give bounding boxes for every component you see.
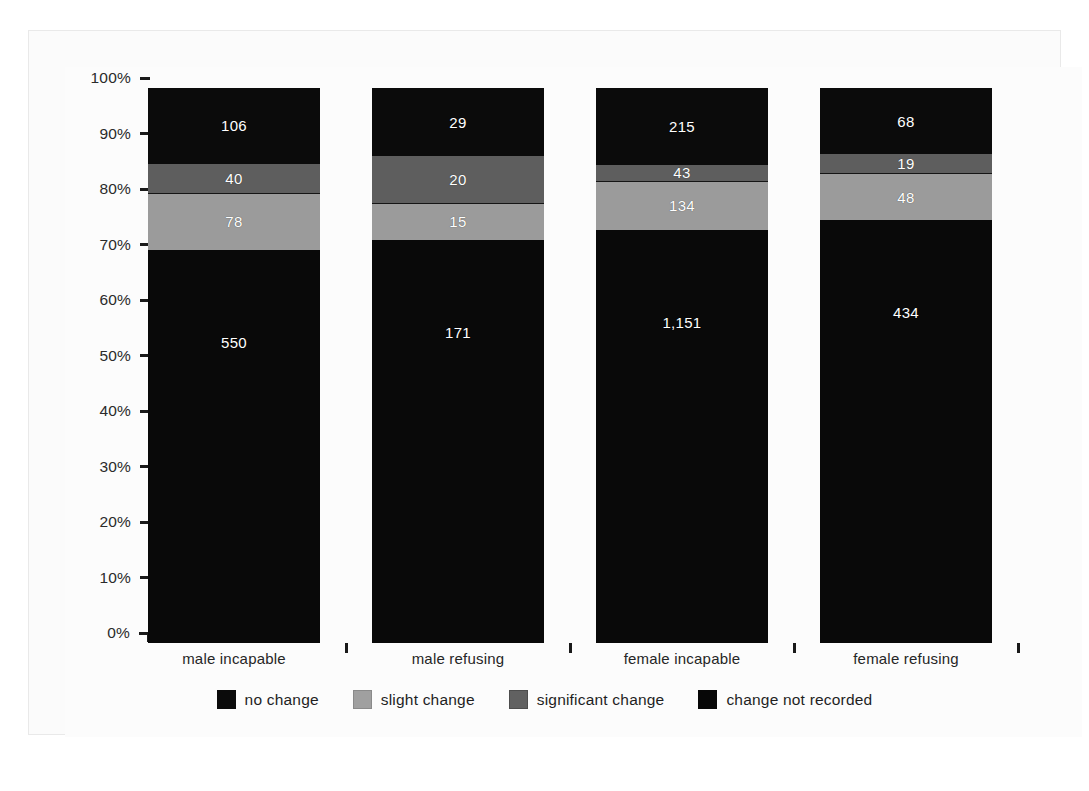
bar-segment-value: 215 xyxy=(669,119,695,134)
legend-label: no change xyxy=(245,691,319,709)
y-axis-tick-30: 30% xyxy=(99,457,150,477)
bar-segment[interactable]: 43 xyxy=(596,165,768,182)
bar-segment-value: 48 xyxy=(897,190,914,205)
legend-swatch xyxy=(217,690,236,709)
y-axis-tick-label: 40% xyxy=(99,401,131,421)
bar-segment[interactable]: 15 xyxy=(372,204,544,239)
y-axis-tick-80: 80% xyxy=(99,179,150,199)
bar-segment-value: 20 xyxy=(449,172,466,187)
y-axis-tick-60: 60% xyxy=(99,290,150,310)
y-axis-tick-label: 60% xyxy=(99,290,131,310)
x-axis-category-label: female refusing xyxy=(820,650,992,667)
y-axis-tick-10: 10% xyxy=(99,568,150,588)
bar-segment-value: 19 xyxy=(897,156,914,171)
bar-segment[interactable]: 68 xyxy=(820,88,992,154)
y-axis-tick-label: 100% xyxy=(91,68,131,88)
bar-segment[interactable]: 215 xyxy=(596,88,768,165)
bar-segment[interactable]: 20 xyxy=(372,156,544,204)
bar-segment[interactable]: 78 xyxy=(148,194,320,250)
stacked-bar[interactable]: 1064078550 xyxy=(148,88,320,643)
legend-item[interactable]: slight change xyxy=(353,690,475,709)
bar-segment-value: 40 xyxy=(225,171,242,186)
y-axis-tick-label: 80% xyxy=(99,179,131,199)
legend-item[interactable]: change not recorded xyxy=(698,690,872,709)
y-axis-tick-100: 100% xyxy=(91,68,150,88)
x-axis-tick-mark xyxy=(1017,643,1020,653)
bar-segment[interactable]: 550 xyxy=(148,250,320,644)
bar-group[interactable]: 681948434 xyxy=(820,88,992,643)
bar-segment[interactable]: 29 xyxy=(372,88,544,156)
y-axis-tick-40: 40% xyxy=(99,401,150,421)
y-axis-tick-label: 70% xyxy=(99,235,131,255)
bar-group[interactable]: 292015171 xyxy=(372,88,544,643)
bar-segment[interactable]: 171 xyxy=(372,240,544,643)
y-axis-tick-mark xyxy=(140,77,150,80)
y-axis-tick-label: 50% xyxy=(99,346,131,366)
y-axis-tick-70: 70% xyxy=(99,235,150,255)
y-axis: 100%90%80%70%60%50%40%30%20%10%0% xyxy=(55,78,150,658)
bar-segment[interactable]: 106 xyxy=(148,88,320,164)
legend-swatch xyxy=(509,690,528,709)
bar-segment-value: 106 xyxy=(221,118,247,133)
y-axis-tick-label: 20% xyxy=(99,512,131,532)
bar-segment[interactable]: 48 xyxy=(820,174,992,221)
bar-segment-value: 550 xyxy=(221,335,247,350)
legend-swatch xyxy=(698,690,717,709)
bar-segment[interactable]: 40 xyxy=(148,164,320,194)
y-axis-tick-50: 50% xyxy=(99,346,150,366)
bar-group[interactable]: 1064078550 xyxy=(148,88,320,643)
legend-label: change not recorded xyxy=(726,691,872,709)
legend-swatch xyxy=(353,690,372,709)
legend-item[interactable]: no change xyxy=(217,690,319,709)
y-axis-tick-label: 10% xyxy=(99,568,131,588)
bar-segment-value: 1,151 xyxy=(662,315,701,330)
y-axis-tick-label: 90% xyxy=(99,124,131,144)
y-axis-tick-20: 20% xyxy=(99,512,150,532)
bar-segment-value: 15 xyxy=(449,214,466,229)
y-axis-tick-label: 0% xyxy=(107,623,130,643)
x-axis-category-label: male refusing xyxy=(372,650,544,667)
bar-segment-value: 434 xyxy=(893,305,919,320)
legend-label: slight change xyxy=(381,691,475,709)
bar-segment-value: 171 xyxy=(445,325,471,340)
x-axis-category-label: male incapable xyxy=(148,650,320,667)
stacked-bar[interactable]: 681948434 xyxy=(820,88,992,643)
bar-segment-value: 43 xyxy=(673,165,690,180)
bar-segment[interactable]: 434 xyxy=(820,220,992,643)
x-axis-category-label: female incapable xyxy=(596,650,768,667)
plot-area: 1064078550292015171215431341,15168194843… xyxy=(148,88,1008,643)
bar-group[interactable]: 215431341,151 xyxy=(596,88,768,643)
bar-segment-value: 78 xyxy=(225,214,242,229)
chart-legend: no changeslight changesignificant change… xyxy=(0,690,1089,709)
y-axis-tick-label: 30% xyxy=(99,457,131,477)
bar-segment-value: 29 xyxy=(449,115,466,130)
legend-label: significant change xyxy=(537,691,665,709)
bar-segment-value: 68 xyxy=(897,114,914,129)
bar-segment[interactable]: 19 xyxy=(820,154,992,173)
bar-segment[interactable]: 1,151 xyxy=(596,230,768,643)
y-axis-tick-90: 90% xyxy=(99,124,150,144)
x-axis-labels: male incapablemale refusingfemale incapa… xyxy=(148,650,1008,678)
legend-item[interactable]: significant change xyxy=(509,690,665,709)
stacked-bar[interactable]: 292015171 xyxy=(372,88,544,643)
bar-segment[interactable]: 134 xyxy=(596,182,768,230)
stacked-bar[interactable]: 215431341,151 xyxy=(596,88,768,643)
y-axis-tick-0: 0% xyxy=(107,623,150,643)
bar-segment-value: 134 xyxy=(669,198,695,213)
